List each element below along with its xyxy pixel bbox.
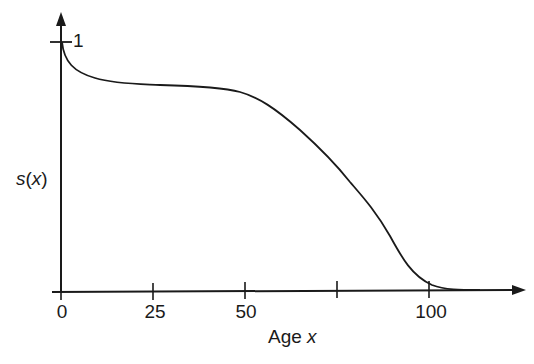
x-axis-arrow-icon xyxy=(512,285,526,295)
y-axis-label: s(x) xyxy=(16,168,48,190)
x-tick-label-25: 25 xyxy=(144,301,165,323)
chart-canvas xyxy=(0,0,534,364)
x-tick-label-100: 100 xyxy=(415,301,447,323)
x-tick-label-50: 50 xyxy=(235,301,256,323)
y-tick-label-1: 1 xyxy=(73,30,84,52)
x-axis-label-text: Age xyxy=(268,326,307,347)
x-tick-label-0: 0 xyxy=(57,301,68,323)
y-axis-label-paren-close: ) xyxy=(41,168,47,189)
survival-curve-chart: 1 s(x) 0 25 50 100 Age x xyxy=(0,0,534,364)
x-axis xyxy=(52,290,516,292)
x-axis-label: Age x xyxy=(268,326,317,348)
survival-curve-line xyxy=(62,42,480,290)
y-axis-label-func: s xyxy=(16,168,26,189)
y-axis-label-var: x xyxy=(32,168,42,189)
x-axis-label-var: x xyxy=(307,326,317,347)
y-axis-arrow-icon xyxy=(56,12,66,26)
